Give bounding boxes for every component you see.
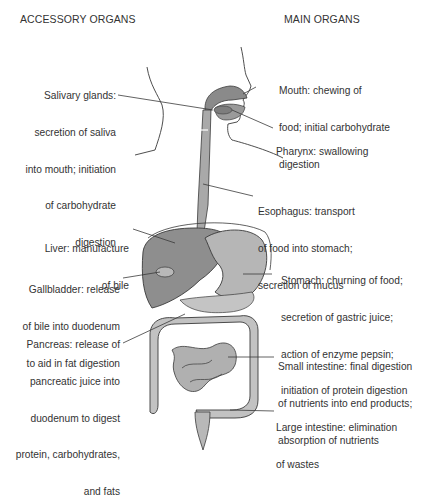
label-line: and fats	[16, 486, 120, 498]
salivary-gland	[214, 106, 232, 114]
label-line: protein, carbohydrates,	[16, 449, 120, 461]
face-profile	[228, 47, 283, 158]
pharynx-label: Pharynx: swallowing	[276, 122, 368, 171]
label-line: Small intestine: final digestion	[278, 361, 412, 373]
label-line: duodenum to digest	[16, 413, 120, 425]
label-line: pancreatic juice into	[16, 376, 120, 388]
label-line: Pancreas: release of	[16, 339, 120, 351]
label-line: Salivary glands:	[25, 90, 116, 102]
label-line: Gallbladder: release	[23, 284, 120, 296]
label-line: of wastes	[276, 459, 397, 471]
large-intestine-label: Large intestine: elimination of wastes	[276, 398, 397, 483]
label-line: Large intestine: elimination	[276, 422, 397, 434]
label-line: secretion of gastric juice;	[281, 312, 407, 324]
pancreas	[180, 292, 254, 313]
label-line: Liver: manufacture	[45, 243, 129, 255]
neck-outline-left	[135, 67, 163, 155]
label-line: Stomach: churning of food;	[281, 275, 407, 287]
rectum	[195, 412, 210, 450]
label-line: Mouth: chewing of	[279, 85, 390, 97]
label-line: Pharynx: swallowing	[276, 146, 368, 158]
esophagus	[197, 110, 211, 232]
label-line: into mouth; initiation	[25, 164, 116, 176]
pancreas-label: Pancreas: release of pancreatic juice in…	[16, 315, 120, 499]
label-line: secretion of saliva	[25, 127, 116, 139]
label-line: of carbohydrate	[25, 200, 116, 212]
label-line: Esophagus: transport	[258, 206, 355, 218]
small-intestine	[172, 343, 236, 392]
